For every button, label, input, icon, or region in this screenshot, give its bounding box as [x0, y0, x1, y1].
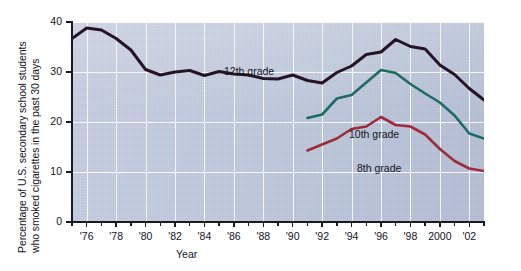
- x-tick-mark-minor: [277, 222, 278, 226]
- y-tick-label: 20: [36, 115, 62, 127]
- y-tick-mark: [66, 171, 71, 173]
- y-axis-line: [71, 21, 73, 223]
- x-tick-mark-major: [174, 222, 175, 227]
- x-tick-mark-minor: [483, 222, 484, 226]
- x-tick-mark-minor: [101, 222, 102, 226]
- series-line-12th-grade: [72, 28, 484, 100]
- y-axis-title: Percentage of U.S. secondary school stud…: [0, 0, 46, 271]
- x-tick-mark-minor: [366, 222, 367, 226]
- x-tick-mark-minor: [189, 222, 190, 226]
- y-axis-title-line-1: Percentage of U.S. secondary school stud…: [16, 41, 28, 253]
- y-tick-mark: [66, 71, 71, 73]
- x-tick-mark-minor: [424, 222, 425, 226]
- x-tick-mark-major: [233, 222, 234, 227]
- x-tick-mark-major: [469, 222, 470, 227]
- x-tick-mark-major: [321, 222, 322, 227]
- x-tick-mark-major: [351, 222, 352, 227]
- x-tick-mark-minor: [307, 222, 308, 226]
- x-tick-mark-minor: [130, 222, 131, 226]
- x-tick-mark-major: [380, 222, 381, 227]
- x-tick-mark-major: [410, 222, 411, 227]
- x-tick-mark-minor: [395, 222, 396, 226]
- x-axis-title: Year: [176, 248, 197, 260]
- x-tick-mark-major: [145, 222, 146, 227]
- x-tick-mark-minor: [336, 222, 337, 226]
- x-tick-mark-major: [263, 222, 264, 227]
- y-tick-label: 30: [36, 65, 62, 77]
- series-lines: [72, 22, 484, 222]
- x-tick-mark-minor: [248, 222, 249, 226]
- y-tick-label: 40: [36, 15, 62, 27]
- x-tick-mark-minor: [454, 222, 455, 226]
- series-label-12th-grade: 12th grade: [224, 65, 274, 77]
- y-tick-label: 0: [36, 215, 62, 227]
- series-label-8th-grade: 8th grade: [357, 162, 401, 174]
- x-tick-mark-minor: [160, 222, 161, 226]
- series-label-10th-grade: 10th grade: [349, 128, 399, 140]
- chart-figure: Percentage of U.S. secondary school stud…: [0, 0, 521, 271]
- x-tick-mark-minor: [71, 222, 72, 226]
- plot-area: 12th grade 10th grade 8th grade: [72, 22, 484, 222]
- y-tick-mark: [66, 221, 71, 223]
- x-tick-mark-major: [204, 222, 205, 227]
- x-tick-mark-minor: [218, 222, 219, 226]
- y-tick-label: 10: [36, 165, 62, 177]
- x-tick-mark-major: [292, 222, 293, 227]
- x-tick-mark-major: [115, 222, 116, 227]
- y-tick-mark: [66, 21, 71, 23]
- x-tick-mark-major: [86, 222, 87, 227]
- x-tick-mark-major: [439, 222, 440, 227]
- y-tick-mark: [66, 121, 71, 123]
- x-tick-label: '02: [449, 230, 489, 242]
